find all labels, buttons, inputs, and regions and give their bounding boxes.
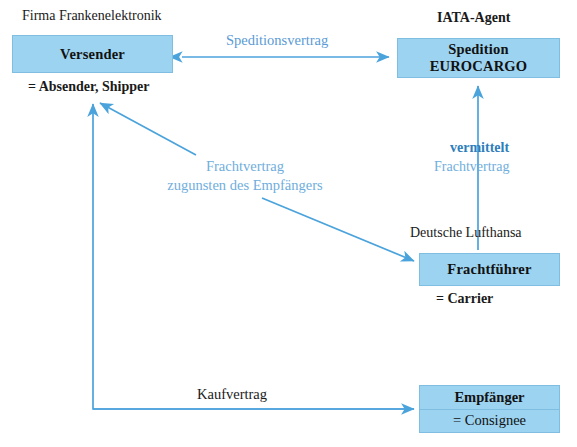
node-empfaenger-label: Empfänger — [454, 389, 524, 406]
node-empfaenger-sub-cell: = Consignee — [420, 409, 559, 433]
node-versender[interactable]: Versender — [12, 35, 173, 73]
node-versender-label: Versender — [60, 46, 125, 63]
node-empfaenger-sublabel: = Consignee — [453, 412, 526, 429]
edge-label-frachtvertrag-line2: zugunsten des Empfängers — [145, 176, 345, 195]
node-spedition-label-line2: EUROCARGO — [430, 58, 528, 75]
edge-label-kaufvertrag: Kaufvertrag — [197, 386, 267, 403]
edge-label-frachtvertrag-right: Frachtvertrag — [434, 159, 509, 175]
edge-empfaenger-to-versender — [93, 104, 414, 409]
edge-label-frachtvertrag-zugunsten: Frachtvertrag zugunsten des Empfängers — [145, 157, 345, 195]
edge-label-frachtvertrag-line1: Frachtvertrag — [145, 157, 345, 176]
caption-iata-agent: IATA-Agent — [437, 10, 510, 26]
node-frachtfuehrer-label: Frachtführer — [447, 261, 531, 278]
caption-absender-shipper: = Absender, Shipper — [28, 79, 149, 95]
node-empfaenger-title-cell: Empfänger — [420, 386, 559, 409]
node-empfaenger[interactable]: Empfänger = Consignee — [419, 385, 560, 433]
node-frachtfuehrer[interactable]: Frachtführer — [419, 253, 560, 286]
caption-carrier: = Carrier — [436, 291, 493, 307]
edge-label-speditionsvertrag: Speditionsvertrag — [226, 32, 328, 49]
caption-deutsche-lufthansa: Deutsche Lufthansa — [410, 225, 522, 241]
edge-label-vermittelt: vermittelt — [450, 140, 509, 156]
caption-firma-frankenelektronik: Firma Frankenelektronik — [22, 8, 162, 24]
diagram-canvas: Firma Frankenelektronik IATA-Agent = Abs… — [0, 0, 577, 447]
node-spedition-label-line1: Spedition — [448, 41, 509, 58]
node-spedition-eurocargo[interactable]: Spedition EUROCARGO — [397, 38, 560, 78]
